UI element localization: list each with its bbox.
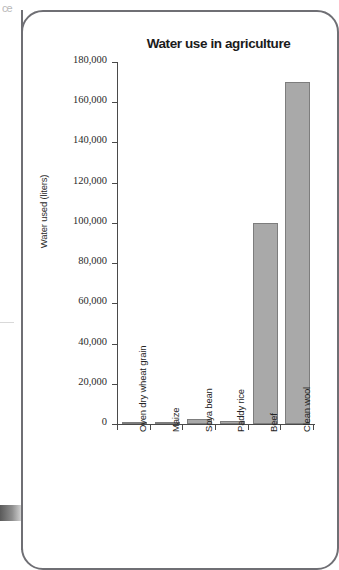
x-axis-label: Beef (268, 322, 280, 432)
y-axis-tick-label: 100,000 (73, 215, 107, 226)
y-axis-tick-mark (112, 183, 117, 184)
x-axis-tick-mark (280, 425, 281, 430)
x-axis-label: Paddy rice (235, 322, 247, 432)
y-axis-tick-label: 40,000 (78, 336, 107, 347)
x-axis-label-text: Beef (268, 322, 279, 432)
x-axis-label-text: Clean wool (301, 322, 312, 432)
y-axis-tick-label: 180,000 (73, 54, 107, 65)
y-axis-tick-label: 120,000 (73, 175, 107, 186)
x-axis-tick-mark (248, 425, 249, 430)
x-axis-label: Oven dry wheat grain (137, 322, 149, 432)
x-axis-label: Clean wool (301, 322, 313, 432)
x-axis-tick-mark (313, 425, 314, 430)
x-axis-label: Maize (170, 322, 182, 432)
scan-page-edge-artifact (0, 505, 22, 521)
y-axis-tick-mark (112, 223, 117, 224)
y-axis-tick-mark (112, 142, 117, 143)
y-axis-tick-label: 20,000 (78, 376, 107, 387)
x-axis-label-text: Oven dry wheat grain (137, 322, 148, 432)
y-axis-tick-mark (112, 303, 117, 304)
x-axis-label-text: Soya bean (203, 322, 214, 432)
y-axis-tick-label: 0 (102, 416, 107, 427)
x-axis-tick-mark (117, 425, 118, 430)
x-axis-tick-mark (150, 425, 151, 430)
y-axis-tick-label: 80,000 (78, 255, 107, 266)
bar-chart: Water use in agriculture Water used (lit… (21, 10, 334, 550)
y-axis-tick-label: 160,000 (73, 94, 107, 105)
y-axis-title: Water used (liters) (38, 152, 49, 272)
scan-rule-artifact (0, 322, 14, 323)
y-axis-tick-mark (112, 344, 117, 345)
y-axis-tick-mark (112, 62, 117, 63)
x-axis-tick-mark (182, 425, 183, 430)
x-axis-label-text: Maize (170, 322, 181, 432)
x-axis-tick-mark (215, 425, 216, 430)
y-axis-tick-mark (112, 384, 117, 385)
y-axis-tick-label: 60,000 (78, 295, 107, 306)
x-axis-label-text: Paddy rice (235, 322, 246, 432)
y-axis-tick-mark (112, 263, 117, 264)
y-axis-tick-mark (112, 102, 117, 103)
y-axis-tick-label: 140,000 (73, 134, 107, 145)
x-axis-label: Soya bean (203, 322, 215, 432)
chart-title: Water use in agriculture (111, 36, 326, 51)
